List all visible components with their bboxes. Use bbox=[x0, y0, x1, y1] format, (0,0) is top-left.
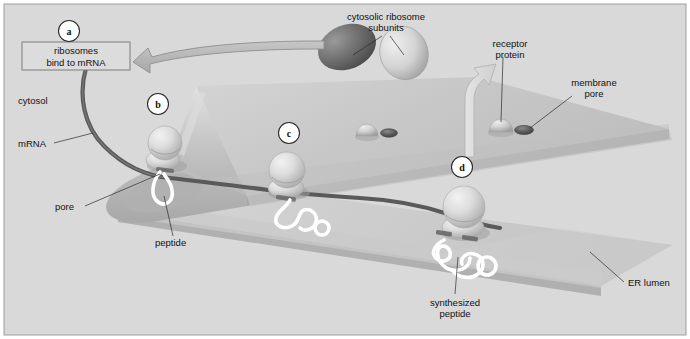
ribosomes-bind-box: ribosomes bind to mRNA bbox=[22, 42, 130, 70]
label-cytosolic-subunits-line2: subunits bbox=[368, 22, 404, 33]
step-marker-a[interactable]: a bbox=[59, 21, 80, 42]
step-marker-d[interactable]: d bbox=[452, 157, 473, 178]
ribosomes-bind-box-line2: bind to mRNA bbox=[46, 57, 106, 68]
label-pore: pore bbox=[55, 201, 74, 212]
membrane-pore-2 bbox=[515, 125, 534, 134]
label-synthesized-peptide-line1: synthesized bbox=[430, 297, 480, 308]
er-protein-synthesis-figure: ribosomes bind to mRNA cytosol mRNA pore… bbox=[0, 0, 690, 339]
step-marker-b-label: b bbox=[155, 99, 161, 110]
label-membrane-pore-line1: membrane bbox=[571, 77, 616, 88]
step-marker-d-label: d bbox=[459, 162, 465, 173]
label-peptide: peptide bbox=[155, 237, 186, 248]
step-marker-b[interactable]: b bbox=[148, 94, 169, 115]
step-marker-c[interactable]: c bbox=[279, 123, 300, 144]
step-marker-a-label: a bbox=[67, 26, 72, 37]
membrane-pore-1 bbox=[381, 129, 398, 137]
label-mrna: mRNA bbox=[18, 138, 47, 149]
step-marker-c-label: c bbox=[287, 128, 292, 139]
label-synthesized-peptide-line2: peptide bbox=[439, 308, 470, 319]
label-membrane-pore-line2: pore bbox=[584, 88, 603, 99]
label-receptor-protein-line1: receptor bbox=[493, 38, 528, 49]
label-cytosolic-subunits-line1: cytosolic ribosome bbox=[347, 11, 425, 22]
label-receptor-protein-line2: protein bbox=[495, 49, 524, 60]
ribosomes-bind-box-line1: ribosomes bbox=[54, 45, 98, 56]
diagram-canvas: ribosomes bind to mRNA cytosol mRNA pore… bbox=[0, 0, 690, 339]
label-er-lumen: ER lumen bbox=[628, 277, 670, 288]
ribosome-b-large-subunit bbox=[148, 126, 182, 160]
label-cytosol: cytosol bbox=[18, 95, 48, 106]
